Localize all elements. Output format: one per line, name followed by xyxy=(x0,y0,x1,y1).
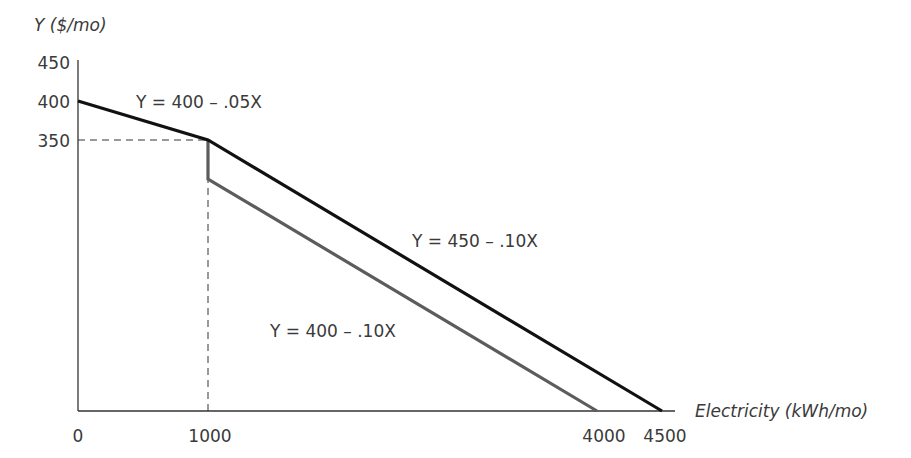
y-tick-400: 400 xyxy=(38,92,70,112)
y-tick-350: 350 xyxy=(38,131,70,151)
line-400-minus-10x xyxy=(208,140,597,411)
x-tick-1000: 1000 xyxy=(188,426,231,446)
line-400-minus-05x-and-450-minus-10x xyxy=(78,101,662,411)
x-tick-4500: 4500 xyxy=(643,426,686,446)
equation-450-minus-10x: Y = 450 – .10X xyxy=(411,231,538,251)
x-tick-0: 0 xyxy=(73,426,84,446)
x-tick-4000: 4000 xyxy=(582,426,625,446)
y-axis-title: Y ($/mo) xyxy=(34,15,107,35)
equation-400-minus-05x: Y = 400 – .05X xyxy=(135,92,262,112)
equation-400-minus-10x: Y = 400 – .10X xyxy=(269,321,396,341)
y-tick-450: 450 xyxy=(38,53,70,73)
budget-constraint-chart: 450 400 350 0 1000 4000 4500 Y ($/mo) El… xyxy=(0,0,911,458)
x-axis-title: Electricity (kWh/mo) xyxy=(695,401,868,421)
